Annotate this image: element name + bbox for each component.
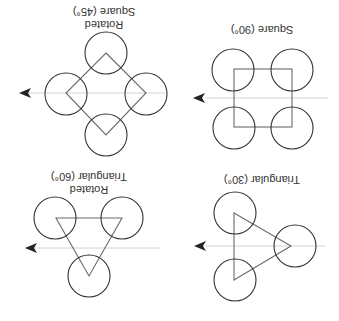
- tube-layout-diagram: Rotated Square (45°) Square (90°) Rotate…: [0, 0, 339, 321]
- flow-arrow-icon: [194, 241, 206, 251]
- panel-label-line2: Triangular (60°): [51, 171, 127, 183]
- panel-square: Square (90°): [193, 24, 328, 149]
- panel-label-line2: Square (45°): [73, 6, 136, 18]
- tube-circle: [45, 73, 87, 115]
- panel-rotated-triangular: Rotated Triangular (60°): [25, 171, 160, 297]
- rotated-square-outline: [66, 53, 146, 135]
- panel-label-line1: Triangular (30°): [224, 174, 300, 186]
- panel-label-line1: Rotated: [85, 19, 124, 31]
- triangle-outline: [56, 218, 122, 276]
- tube-circle: [125, 73, 167, 115]
- panel-label-line1: Rotated: [70, 184, 109, 196]
- panel-triangular: Triangular (30°): [194, 174, 325, 301]
- panel-label-line1: Square (90°): [231, 24, 294, 36]
- flow-arrow-icon: [193, 93, 205, 103]
- tube-circle: [212, 49, 254, 91]
- panel-rotated-square: Rotated Square (45°): [19, 6, 167, 156]
